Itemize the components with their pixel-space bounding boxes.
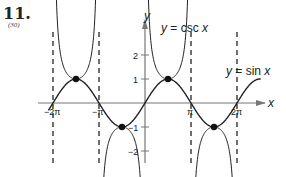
csc-branch-1 <box>55 0 97 79</box>
x-tick-label-2pi: 2π <box>231 107 242 117</box>
x-tick-label-pi: π <box>187 107 193 117</box>
sin-label: y = sin x <box>225 64 271 78</box>
point-dot <box>119 124 125 130</box>
y-axis-label: y <box>143 9 151 23</box>
x-tick-label-neg2pi: −2π <box>44 107 60 117</box>
y-tick-label-neg1: −1 <box>128 123 138 133</box>
point-dot <box>211 124 217 130</box>
csc-branch-4 <box>193 127 235 177</box>
csc-branch-3 <box>147 0 189 79</box>
y-tick-label-1: 1 <box>133 75 138 85</box>
y-tick-label-neg2: −2 <box>128 147 138 157</box>
csc-label: y = csc x <box>160 21 209 35</box>
x-axis-label: x <box>267 96 275 110</box>
point-dot <box>73 76 79 82</box>
y-tick-label-2: 2 <box>133 51 138 61</box>
graph: −2π −π π 2π 2 1 −1 −2 y x y = csc x y = … <box>0 0 286 177</box>
point-dot <box>165 76 171 82</box>
x-tick-label-negpi: −π <box>92 107 103 117</box>
